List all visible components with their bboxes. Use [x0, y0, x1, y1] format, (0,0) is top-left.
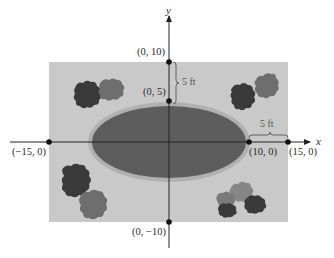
svg-text:(0, −10): (0, −10)	[132, 226, 166, 238]
point-0-neg10: (0, −10)	[132, 219, 172, 238]
y-axis-label: y	[165, 4, 171, 16]
pool-lot-diagram: x y 5 ft 5 ft (0, 10) (0, 5) (0, −10) (−…	[0, 0, 334, 258]
svg-text:(0, 5): (0, 5)	[143, 86, 166, 98]
svg-text:(0, 10): (0, 10)	[137, 46, 165, 58]
horizontal-dimension-label: 5 ft	[260, 118, 274, 129]
vertical-dimension-label: 5 ft	[182, 76, 196, 87]
svg-text:(−15, 0): (−15, 0)	[12, 146, 46, 158]
svg-text:(10, 0): (10, 0)	[249, 146, 277, 158]
svg-text:(15, 0): (15, 0)	[289, 146, 317, 158]
point-0-10: (0, 10)	[137, 46, 172, 65]
